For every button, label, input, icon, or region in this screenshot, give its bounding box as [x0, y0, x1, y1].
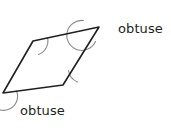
label-obtuse-top-right: obtuse — [118, 22, 163, 36]
label-obtuse-bottom-left: obtuse — [20, 104, 65, 118]
parallelogram-outline — [3, 27, 99, 93]
parallelogram-path — [3, 27, 99, 93]
geometry-figure: obtuse obtuse — [0, 0, 171, 131]
angle-arc-top-right-obtuse — [67, 20, 96, 50]
angle-arc-left-obtuse — [0, 84, 18, 110]
angle-arc-bottom-right-acute — [69, 71, 78, 83]
angle-arc-group — [0, 20, 96, 110]
